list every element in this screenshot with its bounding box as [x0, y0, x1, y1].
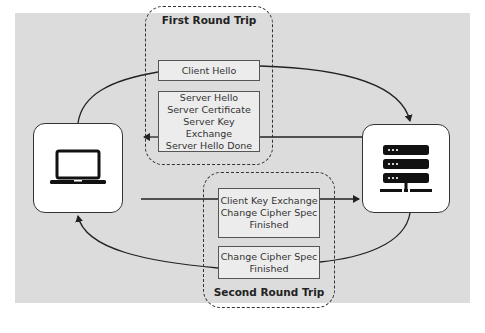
message-line: Change Cipher Spec — [221, 207, 318, 219]
message-line: Server Hello — [180, 92, 238, 104]
message-line: Server Certificate — [167, 104, 251, 116]
message-line: Change Cipher Spec — [221, 251, 318, 263]
wire-clienthello-to-server — [260, 66, 410, 121]
message-line: Server Hello Done — [166, 140, 252, 152]
message-line: Client Key Exchange — [220, 195, 317, 207]
message-server-hello-group: Server Hello Server Certificate Server K… — [158, 91, 260, 152]
message-line: Server Key Exchange — [159, 116, 259, 140]
client-node — [33, 123, 123, 213]
second-round-trip-title: Second Round Trip — [204, 286, 334, 298]
message-line: Finished — [250, 263, 289, 275]
message-line: Client Hello — [182, 65, 237, 77]
first-round-trip-title: First Round Trip — [146, 14, 272, 26]
laptop-icon — [49, 149, 107, 187]
wire-finished-to-client — [78, 216, 218, 268]
server-node — [362, 124, 450, 213]
server-icon — [380, 143, 432, 195]
message-client-hello: Client Hello — [158, 60, 260, 81]
message-client-key-exchange-group: Client Key Exchange Change Cipher Spec F… — [218, 188, 320, 238]
message-server-finished-group: Change Cipher Spec Finished — [218, 246, 320, 279]
message-line: Finished — [250, 219, 289, 231]
